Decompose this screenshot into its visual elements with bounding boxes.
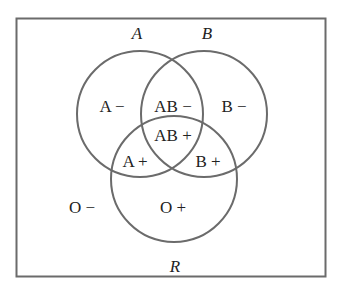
region-b-pos: B +	[195, 152, 220, 171]
region-o-neg: O −	[69, 198, 95, 217]
region-a-pos: A +	[122, 152, 147, 171]
set-label-b: B	[202, 24, 213, 43]
region-ab-pos: AB +	[154, 126, 191, 145]
region-a-neg: A −	[99, 97, 124, 116]
set-label-a: A	[131, 24, 143, 43]
region-o-pos: O +	[160, 198, 186, 217]
region-b-neg: B −	[221, 97, 246, 116]
set-label-r: R	[169, 257, 181, 276]
venn-diagram: A B R A − AB − B − AB + A + B + O + O −	[0, 0, 344, 296]
region-ab-neg: AB −	[154, 97, 191, 116]
universe-rectangle	[17, 19, 326, 277]
